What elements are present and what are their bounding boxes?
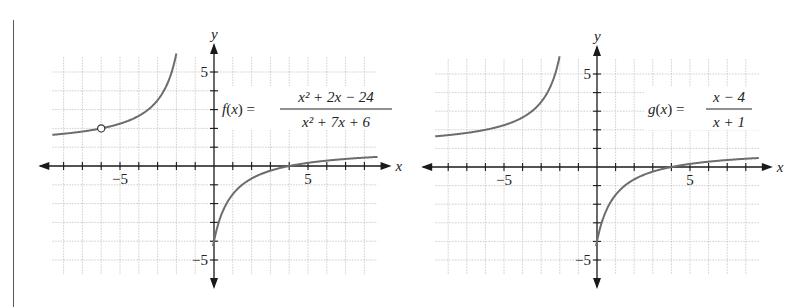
x-axis-left-arrow-icon <box>421 163 432 171</box>
x-tick-label: 5 <box>304 171 312 187</box>
plot-f: −555−5xyf(x) =x² + 2x − 24x² + 7x + 6 <box>38 26 402 289</box>
y-axis-down-arrow-icon <box>593 278 601 289</box>
y-axis-label: y <box>209 26 218 42</box>
axes <box>38 43 391 289</box>
denominator: x² + 7x + 6 <box>301 114 371 130</box>
numerator: x² + 2x − 24 <box>297 89 374 105</box>
y-tick-label: 5 <box>584 66 592 82</box>
y-tick-label: 5 <box>201 64 209 80</box>
equation-label: f(x) =x² + 2x − 24x² + 7x + 6 <box>218 86 400 130</box>
x-axis-left-arrow-icon <box>38 162 49 170</box>
y-axis-up-arrow-icon <box>210 43 218 54</box>
hole-marker <box>98 125 105 132</box>
y-tick-label: −5 <box>575 252 591 268</box>
figure: −555−5xyf(x) =x² + 2x − 24x² + 7x + 6 −5… <box>0 0 797 307</box>
denominator: x + 1 <box>712 114 745 130</box>
axes <box>421 45 773 289</box>
y-axis-down-arrow-icon <box>210 278 218 289</box>
equation-label: g(x) =x − 4x + 1 <box>644 86 760 130</box>
y-axis-label: y <box>592 28 601 44</box>
x-axis-right-arrow-icon <box>381 162 392 170</box>
plot-g: −555−5xyg(x) =x − 4x + 1 <box>421 28 784 289</box>
numerator: x − 4 <box>712 89 745 105</box>
y-tick-label: −5 <box>192 252 208 268</box>
y-axis-up-arrow-icon <box>593 45 601 56</box>
function-name: g(x) = <box>648 101 684 118</box>
x-tick-label: −5 <box>496 172 512 188</box>
function-name: f(x) = <box>222 101 255 118</box>
curve-right-branch <box>213 157 378 246</box>
x-axis-label: x <box>776 159 784 175</box>
x-axis-label: x <box>395 158 403 174</box>
x-axis-right-arrow-icon <box>762 163 773 171</box>
curve-right-branch <box>596 158 759 246</box>
x-tick-label: 5 <box>686 172 694 188</box>
x-tick-label: −5 <box>112 171 128 187</box>
